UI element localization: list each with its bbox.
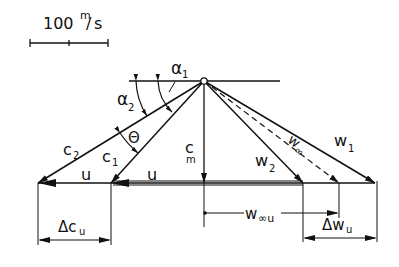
label-u-right: u [147, 165, 157, 184]
vector-w1 [204, 81, 375, 183]
label-theta: Θ [128, 129, 140, 147]
label-w2: w [255, 151, 268, 170]
scale-bar-value: 100 [43, 14, 74, 33]
label-alpha2: α [117, 89, 128, 109]
dimension-delta-wu: Δw u [303, 216, 377, 241]
dimension-w-inf-u: w ∞u [203, 205, 339, 225]
label-c1: c [102, 147, 111, 166]
alpha1-leader [169, 82, 175, 92]
label-c1-sub: 1 [112, 157, 118, 168]
label-w-inf-u: w [245, 205, 257, 223]
label-cm-sub: m [186, 154, 196, 165]
scale-bar-slash: / [86, 14, 92, 33]
label-c2-sub: 2 [73, 150, 79, 161]
pivot-point [201, 78, 207, 84]
label-c2: c [63, 140, 72, 159]
dimension-delta-cu: Δc u [38, 218, 111, 243]
label-delta-wu-sub: u [346, 224, 352, 235]
angle-alpha2-arc [136, 81, 147, 116]
label-u-left: u [81, 165, 91, 184]
label-w1-sub: 1 [348, 143, 354, 154]
velocity-triangle-diagram: 100 m / s α 1 α 2 Θ c 2 c 1 c m w 2 w ∞ … [0, 0, 399, 267]
label-alpha2-sub: 2 [128, 102, 134, 113]
scale-bar: 100 m / s [30, 9, 108, 47]
label-alpha1: α [171, 58, 182, 78]
u-left-arrowhead [38, 179, 56, 187]
scale-bar-unit-den: s [94, 14, 102, 33]
label-delta-cu: Δc [58, 218, 77, 236]
label-w1: w [334, 131, 347, 150]
label-w-inf-u-sub: ∞u [258, 212, 274, 225]
label-alpha1-sub: 1 [182, 69, 188, 80]
label-delta-cu-sub: u [79, 226, 85, 237]
label-w2-sub: 2 [269, 163, 275, 174]
label-delta-wu: Δw [322, 216, 345, 234]
